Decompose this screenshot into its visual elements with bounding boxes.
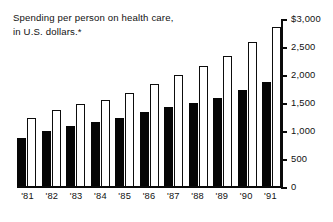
bar-dark-bar <box>66 126 75 188</box>
y-tick-label: 0 <box>291 181 296 192</box>
bar-dark-bar <box>164 107 173 188</box>
bar-dark-bar <box>262 82 271 188</box>
y-tick-label: 2,500 <box>291 41 315 52</box>
bar-group <box>115 20 134 188</box>
y-tick-label: 1,500 <box>291 97 315 108</box>
bar-groups <box>17 20 281 188</box>
bar-light-bar <box>174 75 183 188</box>
bar-dark-bar <box>42 131 51 188</box>
y-axis-ticks: $3,0002,5002,0001,5001,0005000 <box>281 20 333 188</box>
bar-dark-bar <box>213 98 222 188</box>
bar-light-bar <box>223 56 232 188</box>
bar-dark-bar <box>238 90 247 188</box>
bar-dark-bar <box>140 112 149 188</box>
bar-group <box>238 20 257 188</box>
x-axis-line <box>17 186 283 188</box>
bar-light-bar <box>101 100 110 188</box>
x-tick-label: '84 <box>90 191 111 209</box>
bar-group <box>213 20 232 188</box>
bar-group <box>66 20 85 188</box>
bar-light-bar <box>125 93 134 188</box>
bar-group <box>17 20 36 188</box>
x-axis-labels: '81'82'83'84'85'86'87'88'89'90'91 <box>17 191 281 209</box>
x-tick-label: '83 <box>66 191 87 209</box>
bar-dark-bar <box>17 138 26 188</box>
x-tick-label: '88 <box>187 191 208 209</box>
x-tick-label: '85 <box>114 191 135 209</box>
y-tick-label: 1,000 <box>291 125 315 136</box>
bar-light-bar <box>76 104 85 188</box>
bar-light-bar <box>27 118 36 188</box>
bar-dark-bar <box>189 103 198 188</box>
x-tick-label: '89 <box>211 191 232 209</box>
y-tick-mark <box>281 187 287 189</box>
x-tick-label: '87 <box>163 191 184 209</box>
x-tick-label: '90 <box>236 191 257 209</box>
bar-group <box>262 20 281 188</box>
plot-area <box>17 20 281 188</box>
x-tick-label: '81 <box>17 191 38 209</box>
y-tick-label: $3,000 <box>291 13 321 24</box>
bar-group <box>42 20 61 188</box>
y-tick-mark <box>281 131 287 133</box>
bar-group <box>164 20 183 188</box>
bar-light-bar <box>150 84 159 188</box>
bar-light-bar <box>272 27 281 188</box>
x-tick-label: '86 <box>138 191 159 209</box>
x-tick-label: '82 <box>41 191 62 209</box>
y-tick-mark <box>281 47 287 49</box>
y-tick-label: 500 <box>291 153 307 164</box>
y-tick-mark <box>281 159 287 161</box>
bar-dark-bar <box>91 122 100 188</box>
y-tick-label: 2,000 <box>291 69 315 80</box>
bar-light-bar <box>199 66 208 188</box>
bar-dark-bar <box>115 118 124 188</box>
y-tick-mark <box>281 19 287 21</box>
y-tick-mark <box>281 103 287 105</box>
health-care-spending-chart: Spending per person on health care, in U… <box>0 0 333 222</box>
bar-light-bar <box>248 42 257 188</box>
bar-light-bar <box>52 110 61 188</box>
bar-group <box>91 20 110 188</box>
x-tick-label: '91 <box>260 191 281 209</box>
bar-group <box>140 20 159 188</box>
bar-group <box>189 20 208 188</box>
y-tick-mark <box>281 75 287 77</box>
